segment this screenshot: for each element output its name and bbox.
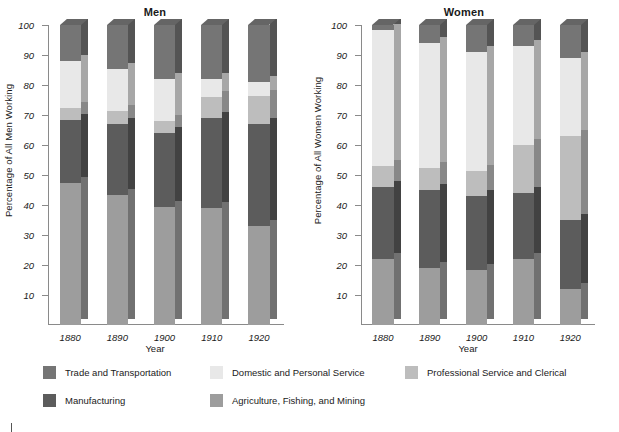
- legend-row-2: ManufacturingAgriculture, Fishing, and M…: [0, 394, 619, 418]
- bar-group[interactable]: 1900: [466, 25, 487, 325]
- stacked-bar[interactable]: [419, 25, 440, 325]
- bar-segment[interactable]: [248, 25, 269, 82]
- bar-segment[interactable]: [107, 69, 128, 111]
- bar-segment[interactable]: [560, 136, 581, 220]
- bar-segment[interactable]: [513, 25, 534, 46]
- legend-swatch: [210, 366, 223, 379]
- bar-segment[interactable]: [466, 25, 487, 52]
- y-tick-label: 50: [336, 170, 347, 181]
- bar-group[interactable]: 1910: [513, 25, 534, 325]
- bar-segment[interactable]: [201, 25, 222, 79]
- legend-item[interactable]: Domestic and Personal Service: [210, 366, 365, 379]
- bar-segment[interactable]: [154, 207, 175, 326]
- bar-segment[interactable]: [419, 25, 440, 43]
- bar-segment[interactable]: [372, 30, 393, 167]
- legend-row-1: Trade and TransportationDomestic and Per…: [0, 366, 619, 390]
- bar-segment[interactable]: [154, 25, 175, 79]
- bar-segment[interactable]: [60, 183, 81, 326]
- bar-segment[interactable]: [107, 124, 128, 195]
- stacked-bar[interactable]: [466, 25, 487, 325]
- bar-segment[interactable]: [60, 25, 81, 61]
- bar-segment[interactable]: [60, 108, 81, 120]
- bar-segment[interactable]: [60, 61, 81, 108]
- stacked-bar[interactable]: [201, 25, 222, 325]
- bars-men: 18801890190019101920: [48, 25, 284, 325]
- y-tick-label: 60: [336, 140, 347, 151]
- bar-group[interactable]: 1880: [372, 25, 393, 325]
- bar-segment[interactable]: [560, 25, 581, 58]
- stacked-bar[interactable]: [60, 25, 81, 325]
- bar-segment[interactable]: [513, 46, 534, 145]
- bar-segment-side: [128, 118, 135, 189]
- bar-segment[interactable]: [560, 289, 581, 325]
- bar-segment[interactable]: [201, 97, 222, 118]
- bar-segment[interactable]: [513, 259, 534, 325]
- bar-segment[interactable]: [201, 79, 222, 97]
- legend-item[interactable]: Manufacturing: [43, 394, 125, 407]
- bar-segment[interactable]: [372, 25, 393, 30]
- legend-item[interactable]: Professional Service and Clerical: [405, 366, 566, 379]
- bar-segment[interactable]: [419, 43, 440, 168]
- bar-segment[interactable]: [466, 52, 487, 171]
- bar-segment[interactable]: [248, 96, 269, 125]
- bar-segment[interactable]: [60, 120, 81, 183]
- bar-segment[interactable]: [466, 196, 487, 270]
- legend-swatch: [43, 394, 56, 407]
- bar-segment[interactable]: [372, 259, 393, 325]
- bar-segment[interactable]: [466, 171, 487, 197]
- bar-group[interactable]: 1910: [201, 25, 222, 325]
- bar-group[interactable]: 1890: [107, 25, 128, 325]
- bar-segment-side: [175, 73, 182, 115]
- legend-item[interactable]: Agriculture, Fishing, and Mining: [210, 394, 365, 407]
- bar-segment[interactable]: [107, 195, 128, 326]
- y-tick-label: 70: [336, 110, 347, 121]
- bar-group[interactable]: 1920: [560, 25, 581, 325]
- bar-segment[interactable]: [419, 190, 440, 268]
- stacked-bar[interactable]: [154, 25, 175, 325]
- y-tick-label: 90: [23, 50, 34, 61]
- legend-item[interactable]: Trade and Transportation: [43, 366, 171, 379]
- y-axis-label-women: Percentage of All Women Working: [311, 0, 325, 300]
- bar-segment-side: [394, 24, 401, 161]
- bar-segment[interactable]: [201, 208, 222, 325]
- bar-segment[interactable]: [560, 220, 581, 289]
- bar-segment-side: [440, 262, 447, 319]
- bar-segment[interactable]: [419, 268, 440, 325]
- bar-segment-side: [222, 19, 229, 73]
- stacked-bar[interactable]: [107, 25, 128, 325]
- bar-segment[interactable]: [248, 82, 269, 96]
- bar-group[interactable]: 1890: [419, 25, 440, 325]
- bar-segment[interactable]: [560, 58, 581, 136]
- y-tick-label: 70: [23, 110, 34, 121]
- legend-label: Trade and Transportation: [65, 367, 171, 378]
- bar-segment[interactable]: [372, 166, 393, 187]
- bar-segment[interactable]: [154, 79, 175, 121]
- bar-segment-side: [270, 19, 277, 76]
- y-tick-label: 80: [336, 80, 347, 91]
- bar-segment-side: [222, 91, 229, 112]
- bar-segment[interactable]: [513, 145, 534, 193]
- y-tick-label: 20: [336, 260, 347, 271]
- bar-segment[interactable]: [513, 193, 534, 259]
- bar-segment[interactable]: [201, 118, 222, 208]
- bar-segment[interactable]: [248, 226, 269, 325]
- stacked-bar[interactable]: [513, 25, 534, 325]
- bar-segment-side: [581, 130, 588, 214]
- bar-segment[interactable]: [154, 121, 175, 133]
- x-tick-label: 1920: [248, 325, 269, 343]
- stacked-bar[interactable]: [372, 25, 393, 325]
- bar-segment[interactable]: [107, 111, 128, 125]
- bar-segment[interactable]: [372, 187, 393, 259]
- bar-segment[interactable]: [107, 25, 128, 69]
- stacked-bar[interactable]: [248, 25, 269, 325]
- bar-group[interactable]: 1900: [154, 25, 175, 325]
- bar-segment[interactable]: [154, 133, 175, 207]
- legend-swatch: [210, 394, 223, 407]
- bar-group[interactable]: 1920: [248, 25, 269, 325]
- bar-segment[interactable]: [419, 168, 440, 191]
- stacked-bar[interactable]: [560, 25, 581, 325]
- bar-segment[interactable]: [466, 270, 487, 326]
- bar-segment[interactable]: [248, 124, 269, 226]
- bar-group[interactable]: 1880: [60, 25, 81, 325]
- y-tick-label: 30: [336, 230, 347, 241]
